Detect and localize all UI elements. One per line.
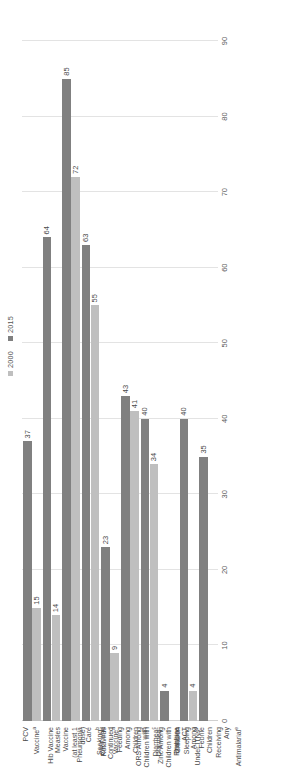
bar-value-label: 40 — [141, 407, 149, 415]
axis-tick-20: 20 — [220, 566, 229, 574]
bar-value-label: 63 — [82, 234, 90, 242]
bar-2000: 9 — [110, 646, 119, 721]
bar-group: 4 — [159, 41, 179, 721]
bar-2015: 23 — [101, 536, 110, 721]
bar-2015: 63 — [82, 234, 91, 721]
axis-tick-80: 80 — [220, 112, 229, 120]
bar-2015: 64 — [43, 226, 52, 721]
bar-group: 4341 — [120, 41, 140, 721]
bar-2015: 37 — [23, 430, 32, 721]
bar-rect-2000 — [189, 691, 198, 721]
axis-tick-60: 60 — [220, 264, 229, 272]
bar-rect-2000 — [91, 305, 100, 721]
bar-rect-2000 — [130, 411, 139, 721]
bar-group: 35 — [198, 41, 218, 721]
bar-value-label: 55 — [91, 294, 99, 302]
bar-rect-2015 — [82, 245, 91, 721]
bar-rect-2015 — [121, 396, 130, 721]
axis-tick-30: 30 — [220, 490, 229, 498]
plot-area: 371564148572635523943414034440435 — [22, 41, 218, 721]
bar-2015: 40 — [180, 407, 189, 721]
bar-2000: 4 — [189, 684, 198, 721]
bar-rect-2000 — [150, 464, 159, 721]
bar-value-label: 43 — [122, 385, 130, 393]
category-axis-labels: PCV VaccineaHib VaccineMeasles Vaccine(a… — [22, 724, 218, 768]
bar-2015: 4 — [160, 684, 169, 721]
legend-swatch-2015 — [8, 336, 13, 341]
bar-2000: 34 — [150, 453, 159, 721]
footnote-marker: a — [31, 727, 37, 730]
bar-2015: 43 — [121, 385, 130, 721]
bar-value-label: 64 — [43, 226, 51, 234]
bar-2015: 35 — [199, 445, 208, 721]
bar-2015: 40 — [141, 407, 150, 721]
bar-2015: 85 — [62, 67, 71, 721]
bar-rect-2015 — [23, 441, 32, 721]
legend-item-2000: 2000 — [6, 351, 15, 376]
bar-rect-2015 — [160, 691, 169, 721]
bar-value-label: 15 — [33, 596, 41, 604]
bar-2000: 55 — [91, 294, 100, 721]
bar-rect-2000 — [110, 653, 119, 721]
axis-tick-10: 10 — [220, 641, 229, 649]
bar-value-label: 9 — [111, 646, 119, 650]
axis-tick-90: 90 — [220, 37, 229, 45]
bar-rect-2000 — [52, 615, 61, 721]
legend-item-2015: 2015 — [6, 316, 15, 341]
bar-rect-2015 — [43, 237, 52, 721]
footnote-marker: e — [233, 727, 239, 730]
axis-tick-70: 70 — [220, 188, 229, 196]
bar-groups: 371564148572635523943414034440435 — [22, 41, 218, 721]
bar-value-label: 34 — [150, 453, 158, 461]
axis-tick-40: 40 — [220, 415, 229, 423]
bar-value-label: 40 — [180, 407, 188, 415]
bar-value-label: 85 — [63, 67, 71, 75]
bar-rect-2000 — [71, 177, 80, 721]
legend-label-2000: 2000 — [6, 351, 15, 368]
bar-value-label: 37 — [24, 430, 32, 438]
legend-label-2015: 2015 — [6, 316, 15, 333]
value-axis-ticks: 0102030405060708090 — [220, 41, 248, 721]
bar-rect-2015 — [101, 547, 110, 721]
bar-rect-2000 — [32, 608, 41, 721]
bar-rect-2015 — [62, 79, 71, 721]
bar-2000: 72 — [71, 166, 80, 721]
bar-value-label: 35 — [200, 445, 208, 453]
axis-tick-50: 50 — [220, 339, 229, 347]
bar-group: 239 — [100, 41, 120, 721]
axis-tick-0: 0 — [220, 719, 229, 723]
bar-value-label: 14 — [52, 604, 60, 612]
bar-2000: 14 — [52, 604, 61, 721]
bar-rect-2015 — [141, 419, 150, 721]
category-label: First Line ACTAmong FebrileChildren Rece… — [173, 727, 244, 768]
bar-group: 4034 — [140, 41, 160, 721]
bar-group: 6355 — [81, 41, 101, 721]
chart-figure: 2000 2015 PCV VaccineaHib VaccineMeasles… — [0, 0, 289, 768]
bar-group: 3715 — [22, 41, 42, 721]
bar-2000: 15 — [32, 596, 41, 721]
bar-value-label: 4 — [189, 684, 197, 688]
bar-rect-2015 — [180, 419, 189, 721]
bar-rect-2015 — [199, 457, 208, 721]
bar-group: 6414 — [42, 41, 62, 721]
category-label: PCV Vaccinea — [22, 727, 42, 768]
bar-value-label: 72 — [72, 166, 80, 174]
chart-legend: 2000 2015 — [6, 316, 15, 376]
bar-value-label: 4 — [161, 684, 169, 688]
bar-value-label: 23 — [102, 536, 110, 544]
legend-swatch-2000 — [8, 371, 13, 376]
bar-2000: 41 — [130, 400, 139, 721]
bar-group: 8572 — [61, 41, 81, 721]
bar-value-label: 41 — [131, 400, 139, 408]
bar-group: 404 — [179, 41, 199, 721]
